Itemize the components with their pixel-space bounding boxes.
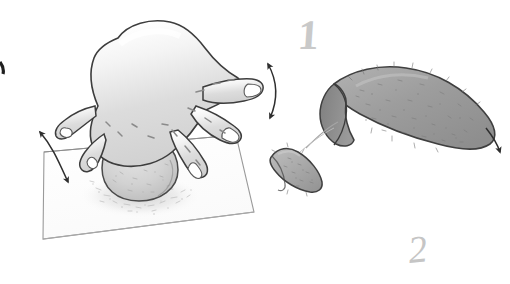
wedge-body — [270, 149, 322, 193]
small-wedge — [270, 143, 322, 196]
illustration-canvas: 1 2 — [0, 0, 510, 284]
dough-shaping-illustration — [0, 0, 510, 284]
arrow-edge-mark — [0, 62, 3, 74]
arrow-double-right — [268, 64, 276, 118]
nail-thumb — [60, 128, 72, 138]
step-two-numeral: 2 — [406, 229, 429, 269]
loaf-body — [333, 67, 495, 149]
step-one-numeral: 1 — [297, 14, 321, 56]
large-loaf — [320, 62, 495, 152]
